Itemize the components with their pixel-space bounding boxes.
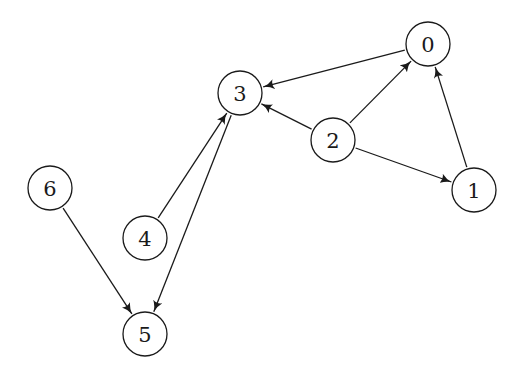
edge-2-to-1 <box>356 148 452 182</box>
graph-node-5: 5 <box>123 312 167 356</box>
edge-0-to-3 <box>263 50 405 87</box>
node-label: 6 <box>43 177 56 201</box>
edge-4-to-3 <box>158 113 227 218</box>
graph-node-1: 1 <box>452 168 496 212</box>
graph-node-6: 6 <box>28 166 72 210</box>
node-label: 3 <box>233 82 246 106</box>
edge-3-to-5 <box>154 115 231 311</box>
node-label: 5 <box>138 323 151 347</box>
edge-6-to-5 <box>63 208 132 314</box>
node-label: 1 <box>467 179 480 203</box>
node-label: 4 <box>138 227 151 251</box>
edge-2-to-3 <box>261 104 311 129</box>
graph-node-2: 2 <box>311 118 355 162</box>
nodes-layer: 0123456 <box>28 22 496 356</box>
node-label: 0 <box>421 33 434 57</box>
edge-2-to-0 <box>350 61 411 123</box>
graph-node-0: 0 <box>406 22 450 66</box>
node-label: 2 <box>326 129 339 153</box>
edge-1-to-0 <box>435 67 467 167</box>
edges-layer <box>63 50 467 314</box>
directed-graph-canvas: 0123456 <box>0 0 519 379</box>
graph-node-4: 4 <box>123 216 167 260</box>
graph-node-3: 3 <box>218 71 262 115</box>
